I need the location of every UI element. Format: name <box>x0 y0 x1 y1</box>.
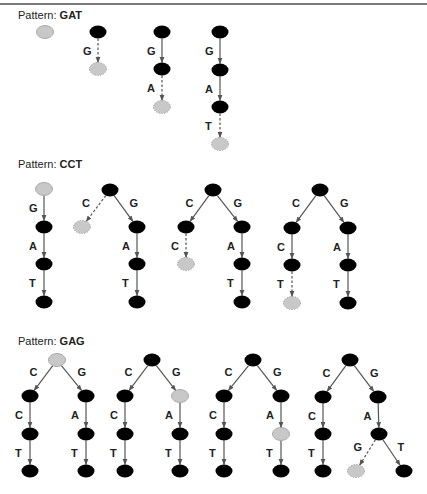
candidate-node <box>284 297 301 310</box>
tree-node <box>205 184 222 197</box>
candidate-node <box>212 138 229 151</box>
edge-label: C <box>209 409 217 421</box>
tree-node <box>22 465 39 478</box>
edge-label: A <box>333 241 341 253</box>
edge-label: G <box>130 197 139 209</box>
edge-label: G <box>370 367 379 379</box>
tree-node <box>172 465 189 478</box>
edge-label: C <box>277 241 285 253</box>
tree-node <box>284 222 301 235</box>
edge-label: G <box>29 202 38 214</box>
candidate-node <box>90 63 107 76</box>
edge-label: T <box>165 447 172 459</box>
tree-node <box>36 258 53 271</box>
edge-label: G <box>273 366 282 378</box>
tree-node <box>342 354 359 367</box>
edge-label: A <box>122 240 130 252</box>
tree-node <box>102 184 119 197</box>
candidate-node <box>37 26 54 39</box>
edge-label: C <box>82 197 90 209</box>
tree-node <box>178 221 195 234</box>
edge-label: C <box>186 197 194 209</box>
edge-label: A <box>165 409 173 421</box>
tree-node <box>129 296 146 309</box>
edge-label: C <box>15 409 23 421</box>
candidate-node <box>172 390 189 403</box>
edge-label: C <box>125 366 133 378</box>
tree-node <box>154 26 171 39</box>
edge-label: T <box>227 277 234 289</box>
edge-label: C <box>171 240 179 252</box>
tree-node <box>212 64 229 77</box>
edge-a <box>378 403 379 427</box>
tree-node <box>315 465 332 478</box>
tree-node <box>234 221 251 234</box>
edge-label: C <box>308 410 316 422</box>
tree-node <box>245 354 262 367</box>
candidate-node <box>74 221 91 234</box>
tree-node <box>234 258 251 271</box>
edge-label: C <box>292 197 300 209</box>
candidate-node <box>49 354 66 367</box>
tree-node <box>284 259 301 272</box>
tree-node <box>340 259 357 272</box>
tree-node <box>90 26 107 39</box>
edge-label: C <box>110 409 118 421</box>
edge-label: A <box>205 83 213 95</box>
tree-node <box>78 390 95 403</box>
tree-node <box>273 390 290 403</box>
edge-label: A <box>71 409 79 421</box>
tree-node <box>216 390 233 403</box>
tree-node <box>36 296 53 309</box>
candidate-node <box>154 101 171 114</box>
edge-label: T <box>122 277 129 289</box>
candidate-node <box>348 465 365 478</box>
tree-node <box>273 465 290 478</box>
edge-label: T <box>277 278 284 290</box>
tree-node <box>396 465 413 478</box>
tree-node <box>78 428 95 441</box>
edge-label: A <box>266 409 274 421</box>
edge-label: G <box>205 45 214 57</box>
candidate-node <box>178 258 195 271</box>
edge-label: T <box>266 447 273 459</box>
candidate-node <box>36 183 53 196</box>
edge-label: C <box>30 366 38 378</box>
edge-label: T <box>29 277 36 289</box>
tree-node <box>340 297 357 310</box>
edge-label: T <box>71 447 78 459</box>
edge-label: T <box>209 447 216 459</box>
tree-node <box>315 391 332 404</box>
tree-node <box>315 428 332 441</box>
edge-label: A <box>364 410 372 422</box>
edge-label: T <box>110 447 117 459</box>
tree-node <box>117 428 134 441</box>
tree-node <box>216 465 233 478</box>
edge-label: A <box>147 82 155 94</box>
edge-label: C <box>225 366 233 378</box>
suffix-tree-diagram: GGAGATGATCGATCCGATCCTGATCCTGATCCTGATCCTG… <box>0 0 427 494</box>
edge-label: T <box>333 278 340 290</box>
edge-label: G <box>147 45 156 57</box>
tree-node <box>144 354 161 367</box>
tree-node <box>36 221 53 234</box>
tree-node <box>78 465 95 478</box>
tree-node <box>234 296 251 309</box>
tree-node <box>212 101 229 114</box>
tree-node <box>22 428 39 441</box>
tree-node <box>216 428 233 441</box>
edge-label: G <box>83 45 92 57</box>
edge-label: G <box>340 197 349 209</box>
edge-label: T <box>205 120 212 132</box>
tree-node <box>117 390 134 403</box>
edge-label: A <box>227 240 235 252</box>
tree-node <box>129 221 146 234</box>
candidate-node <box>273 428 290 441</box>
edge-label: G <box>354 441 363 453</box>
tree-node <box>117 465 134 478</box>
tree-node <box>370 391 387 404</box>
tree-node <box>340 222 357 235</box>
edge-label: G <box>172 366 181 378</box>
edge-label: G <box>234 197 243 209</box>
tree-node <box>212 26 229 39</box>
